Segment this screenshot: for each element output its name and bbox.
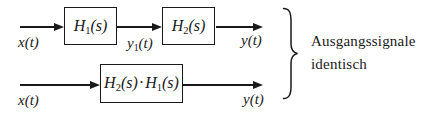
- block-h2: H2(s): [162, 7, 215, 45]
- block-h2-label: H2(s): [172, 17, 206, 36]
- combined-output-line: [183, 84, 254, 86]
- series-input-label: x(t): [18, 34, 39, 51]
- annotation-line1: Ausgangssignale: [311, 33, 416, 50]
- block-h1: H1(s): [64, 7, 117, 45]
- block-h1-label: H1(s): [74, 17, 108, 36]
- curly-brace-icon: [276, 3, 302, 105]
- block-h2h1-label: H2(s)·H1(s): [104, 74, 179, 93]
- combined-input-line: [20, 84, 91, 86]
- block-h1-base: H: [74, 17, 86, 34]
- block-h2-arg: (s): [188, 17, 205, 34]
- factor1-base: H: [104, 74, 116, 91]
- combined-output-label: y(t): [243, 91, 264, 108]
- series-output-label: y(t): [241, 32, 262, 49]
- factor1-arg: (s): [121, 74, 138, 91]
- series-output-line: [216, 26, 254, 28]
- block-diagram: x(t) H1(s) y1(t) H2(s) y(t) x(t) H2(s)·H…: [0, 0, 427, 116]
- series-input-arrowhead-icon: [54, 23, 64, 31]
- intermediate-arg: (t): [139, 35, 153, 51]
- combined-output-arrowhead-icon: [253, 81, 263, 89]
- series-connector-arrowhead-icon: [152, 23, 162, 31]
- block-h2-base: H: [172, 17, 184, 34]
- factor2-arg: (s): [162, 74, 179, 91]
- block-h2h1: H2(s)·H1(s): [100, 64, 183, 103]
- combined-input-arrowhead-icon: [90, 81, 100, 89]
- series-input-line: [20, 26, 55, 28]
- intermediate-base: y: [127, 35, 134, 51]
- series-output-arrowhead-icon: [253, 23, 263, 31]
- combined-input-label: x(t): [18, 92, 39, 109]
- block-h1-arg: (s): [90, 17, 107, 34]
- series-intermediate-label: y1(t): [127, 35, 153, 53]
- factor2-base: H: [145, 74, 157, 91]
- annotation-line2: identisch: [311, 56, 367, 73]
- series-connector-line: [117, 26, 153, 28]
